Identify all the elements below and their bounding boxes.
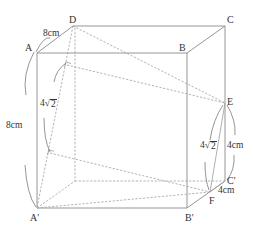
segment-foot-bottom-to-F (50, 153, 210, 192)
right-angle-mark-bottom (48, 150, 55, 155)
radicand: 2 (50, 99, 57, 110)
cube-drawing (0, 0, 253, 234)
vertex-label-A: A (25, 43, 32, 53)
vertex-label-F: F (209, 196, 215, 206)
dimension-AA-prime: 8cm (6, 121, 22, 131)
edge-A-prime-D-prime (37, 181, 75, 208)
dimension-EC-prime: 4cm (227, 141, 243, 151)
segment-A-prime-F (37, 192, 210, 208)
edge-BC (187, 26, 225, 53)
vertex-label-A-prime: A' (30, 213, 39, 223)
right-angle-mark-top (65, 62, 72, 67)
dimension-AD: 8cm (43, 29, 59, 39)
dimension-C-prime-F: 4cm (218, 186, 234, 196)
arc-AA-prime-top (25, 52, 34, 95)
vertex-label-B-prime: B' (185, 213, 193, 223)
segment-DE (73, 26, 225, 103)
vertex-label-B: B (179, 43, 186, 53)
arc-EC-prime-top (227, 105, 235, 135)
dimension-arcs (25, 38, 235, 207)
vertex-label-C: C (227, 15, 234, 25)
radicand: 2 (210, 141, 217, 152)
arc-EF-bottom (205, 162, 209, 190)
vertex-label-E: E (227, 97, 233, 107)
cube-figure: A D C B E A' B' C' F 8cm 8cm 4√2 4√2 4cm… (0, 0, 253, 234)
dimension-EF-segment: 4√2 (200, 141, 217, 152)
vertex-label-D: D (69, 15, 76, 25)
arc-EF-top (210, 105, 223, 140)
arc-AA-prime-bottom (25, 165, 36, 207)
dimension-DA-prime-segment: 4√2 (40, 99, 57, 110)
segment-foot-top-to-E (67, 65, 225, 103)
